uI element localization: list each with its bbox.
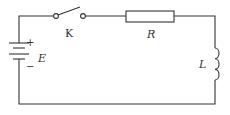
circuit-wires bbox=[19, 16, 215, 104]
inductor-label: L bbox=[198, 58, 206, 71]
battery-plus-sign: + bbox=[26, 37, 34, 48]
battery-minus-sign: − bbox=[26, 61, 34, 72]
wire-bottom bbox=[19, 62, 215, 104]
resistor bbox=[126, 11, 174, 22]
wire-resistor-inductor bbox=[174, 16, 215, 48]
switch-terminal-right bbox=[81, 14, 86, 19]
switch-terminal-left bbox=[54, 14, 59, 19]
switch-k bbox=[54, 7, 86, 18]
circuit-diagram: K R + − E L bbox=[0, 0, 230, 115]
switch-blade bbox=[58, 7, 80, 15]
inductor-coil bbox=[215, 48, 219, 80]
battery-label: E bbox=[37, 52, 46, 65]
wire-left-top bbox=[19, 16, 54, 43]
resistor-label: R bbox=[146, 28, 155, 41]
switch-label: K bbox=[65, 27, 74, 40]
